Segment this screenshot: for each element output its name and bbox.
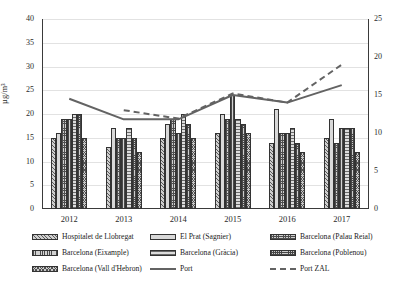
x-axis-tick-label: 2017 <box>312 215 372 224</box>
legend-item[interactable]: Barcelona (Gràcia) <box>150 248 238 257</box>
legend-item[interactable]: Hospitalet de Llobregat <box>32 232 134 241</box>
y-axis-left-tick-label: 0 <box>4 205 34 213</box>
legend-swatch-solid-light <box>150 234 176 240</box>
chart-legend: Hospitalet de LlobregatEl Prat (Sagnier)… <box>0 232 413 285</box>
y-axis-left-tick-label: 10 <box>4 158 34 166</box>
legend-item[interactable]: Barcelona (Vall d'Hebron) <box>32 264 142 273</box>
legend-label: Barcelona (Vall d'Hebron) <box>62 264 142 273</box>
legend-label: El Prat (Sagnier) <box>180 232 231 241</box>
legend-item[interactable]: Port <box>150 264 193 273</box>
y-axis-right-tick-label: 25 <box>374 15 404 23</box>
y-axis-left-tick-label: 15 <box>4 134 34 142</box>
legend-label: Hospitalet de Llobregat <box>62 232 134 241</box>
y-axis-right-tick-label: 0 <box>374 205 404 213</box>
legend-item[interactable]: Barcelona (Poblenou) <box>270 248 366 257</box>
line-series-port-zal <box>124 65 342 119</box>
legend-swatch-dense-cross-hatch <box>32 266 58 272</box>
x-axis-tick-label: 2014 <box>148 215 208 224</box>
y-axis-left-tick-label: 40 <box>4 15 34 23</box>
y-axis-right-tick-label: 5 <box>374 167 404 175</box>
legend-item[interactable]: Port ZAL <box>270 264 329 273</box>
legend-swatch-vertical-hatch <box>32 250 58 256</box>
y-axis-right-tick-label: 20 <box>374 53 404 61</box>
line-series-svg <box>42 19 369 209</box>
y-axis-left-tick-label: 30 <box>4 63 34 71</box>
y-axis-left-tick-label: 25 <box>4 86 34 94</box>
legend-swatch-fine-cross-hatch <box>270 250 296 256</box>
legend-label: Barcelona (Gràcia) <box>180 248 238 257</box>
y-axis-right-tick-label: 15 <box>374 91 404 99</box>
legend-swatch-dashed-line <box>270 266 296 272</box>
legend-swatch-cross-hatch <box>270 234 296 240</box>
x-axis-tick-label: 2016 <box>257 215 317 224</box>
x-axis-tick-label: 2012 <box>39 215 99 224</box>
legend-label: Port <box>180 264 193 273</box>
legend-swatch-horizontal-light <box>150 250 176 256</box>
legend-item[interactable]: El Prat (Sagnier) <box>150 232 231 241</box>
legend-label: Barcelona (Palau Reial) <box>300 232 373 241</box>
legend-swatch-solid-line <box>150 266 176 272</box>
line-series-port <box>69 85 342 119</box>
lines-layer <box>42 19 369 209</box>
legend-label: Barcelona (Eixample) <box>62 248 129 257</box>
legend-item[interactable]: Barcelona (Palau Reial) <box>270 232 373 241</box>
x-axis-tick-label: 2013 <box>94 215 154 224</box>
legend-label: Port ZAL <box>300 264 329 273</box>
legend-swatch-diagonal-hatch <box>32 234 58 240</box>
legend-label: Barcelona (Poblenou) <box>300 248 366 257</box>
y-axis-left-tick-label: 35 <box>4 39 34 47</box>
legend-item[interactable]: Barcelona (Eixample) <box>32 248 129 257</box>
x-axis-tick-label: 2015 <box>203 215 263 224</box>
chart-root: µg/m³ 4035302520151050 2520151050 201220… <box>0 0 413 285</box>
y-axis-right-tick-label: 10 <box>374 129 404 137</box>
y-axis-left-tick-label: 5 <box>4 181 34 189</box>
y-axis-left-tick-label: 20 <box>4 110 34 118</box>
